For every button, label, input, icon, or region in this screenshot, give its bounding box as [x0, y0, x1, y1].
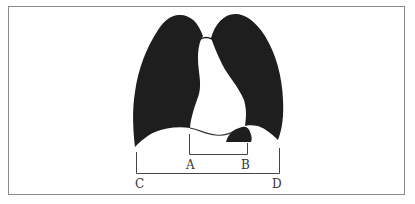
label-a: A: [185, 158, 195, 172]
gastric-shape: [226, 127, 252, 142]
bracket-c-d: [137, 148, 280, 174]
label-b: B: [241, 158, 250, 172]
diaphragm-curve: [190, 128, 236, 135]
label-c: C: [135, 177, 144, 191]
left-lung: [133, 15, 203, 147]
right-lung: [211, 14, 283, 140]
label-d: D: [272, 177, 282, 191]
chest-diagram: A B C D: [0, 0, 415, 204]
trachea: [201, 38, 212, 40]
